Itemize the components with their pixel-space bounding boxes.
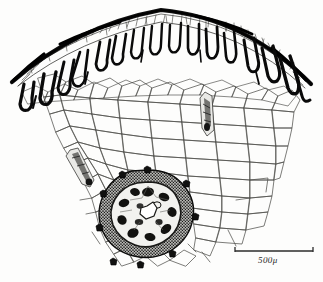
section-drawing (0, 0, 323, 282)
minor-bundle-left (66, 148, 94, 187)
scale-bar (235, 247, 313, 252)
central-vascular-bundle (95, 165, 200, 268)
figure-root: 500μ (0, 0, 323, 282)
sclerenchyma-girders (20, 23, 310, 110)
minor-bundle-right (200, 92, 214, 136)
scale-bar-label: 500μ (258, 255, 278, 265)
